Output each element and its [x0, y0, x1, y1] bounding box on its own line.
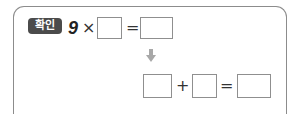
down-arrow-icon — [146, 49, 156, 63]
equals-symbol-row1: = — [126, 17, 139, 39]
equals-symbol-row2: = — [220, 75, 233, 97]
answer-box-addend-1[interactable] — [143, 74, 172, 98]
answer-box-multiplier[interactable] — [97, 17, 122, 39]
answer-box-product[interactable] — [140, 17, 173, 39]
times-symbol: × — [82, 17, 95, 39]
plus-symbol: + — [176, 75, 189, 97]
multiplicand: 9 — [68, 17, 78, 39]
answer-box-addend-2[interactable] — [192, 74, 217, 98]
confirm-badge: 확인 — [28, 18, 62, 34]
answer-box-sum[interactable] — [237, 74, 271, 98]
